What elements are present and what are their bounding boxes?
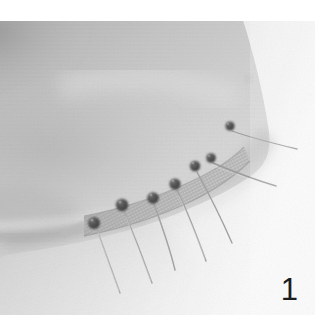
- figure-panel: 1: [0, 0, 315, 335]
- figure-number-label: 1: [278, 274, 298, 306]
- photograph: [0, 21, 315, 315]
- film-grain: [0, 21, 315, 315]
- photograph-image: [0, 21, 315, 315]
